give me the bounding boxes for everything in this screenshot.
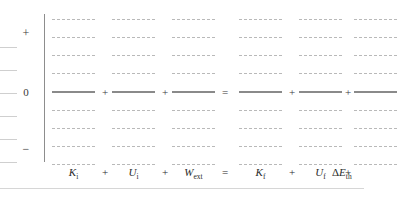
bar-column-kinetic-initial[interactable]	[52, 14, 95, 162]
term-label-work-external: Wext	[172, 166, 215, 181]
equation-operator-plus-1: +	[98, 166, 112, 178]
grid-row	[112, 164, 155, 165]
edge-tick-mark	[0, 47, 17, 48]
bottom-divider-rule	[0, 188, 364, 189]
equation-operator-plus-3: +	[285, 166, 299, 178]
grid-row	[354, 55, 397, 56]
zero-level-bar[interactable]	[52, 91, 95, 93]
grid-row	[172, 19, 215, 20]
bar-column-potential-initial[interactable]	[112, 14, 155, 162]
grid-row	[52, 55, 95, 56]
grid-row	[299, 128, 342, 129]
grid-row	[172, 55, 215, 56]
term-subscript: ext	[194, 172, 203, 181]
grid-row	[172, 128, 215, 129]
grid-row	[299, 37, 342, 38]
grid-row	[299, 19, 342, 20]
edge-tick-mark	[0, 139, 17, 140]
zero-level-bar[interactable]	[239, 91, 282, 93]
grid-row	[239, 164, 282, 165]
grid-row	[239, 55, 282, 56]
zero-level-bar[interactable]	[299, 91, 342, 93]
operator-plus-2: +	[158, 86, 172, 98]
grid-row	[239, 128, 282, 129]
grid-row	[299, 110, 342, 111]
grid-row	[112, 146, 155, 147]
zero-level-bar[interactable]	[172, 91, 215, 93]
grid-row	[52, 73, 95, 74]
grid-row	[112, 37, 155, 38]
equation-operator-plus-2: +	[158, 166, 172, 178]
grid-row	[354, 37, 397, 38]
bar-column-potential-final[interactable]	[299, 14, 342, 162]
grid-row	[172, 164, 215, 165]
bar-column-thermal-energy-change[interactable]	[354, 14, 397, 162]
term-label-kinetic-initial: Ki	[52, 166, 95, 181]
grid-row	[299, 73, 342, 74]
grid-row	[239, 146, 282, 147]
zero-level-bar[interactable]	[112, 91, 155, 93]
axis-label-positive: +	[16, 26, 36, 41]
bar-column-work-external[interactable]	[172, 14, 215, 162]
term-symbol: W	[184, 166, 193, 178]
grid-row	[172, 73, 215, 74]
edge-tick-mark	[0, 70, 17, 71]
operator-plus-3: +	[285, 86, 299, 98]
grid-row	[172, 37, 215, 38]
grid-row	[112, 19, 155, 20]
term-label-potential-initial: Ui	[112, 166, 155, 181]
grid-row	[112, 73, 155, 74]
grid-row	[239, 37, 282, 38]
term-subscript: f	[263, 172, 266, 181]
grid-row	[354, 73, 397, 74]
grid-row	[354, 19, 397, 20]
edge-tick-mark	[0, 93, 17, 94]
grid-row	[52, 146, 95, 147]
operator-plus-4: +	[341, 86, 355, 98]
grid-row	[239, 19, 282, 20]
edge-tick-mark	[0, 162, 17, 163]
term-symbol: K	[256, 166, 263, 178]
grid-row	[112, 55, 155, 56]
grid-row	[354, 128, 397, 129]
grid-row	[52, 37, 95, 38]
grid-row	[52, 19, 95, 20]
term-subscript: f	[323, 172, 326, 181]
grid-row	[172, 110, 215, 111]
grid-row	[239, 110, 282, 111]
zero-level-bar[interactable]	[354, 91, 397, 93]
grid-row	[354, 164, 397, 165]
grid-row	[112, 110, 155, 111]
grid-row	[239, 73, 282, 74]
axis-label-zero: 0	[16, 86, 36, 98]
term-subscript: i	[136, 172, 138, 181]
grid-row	[299, 55, 342, 56]
operator-plus-1: +	[98, 86, 112, 98]
grid-row	[52, 128, 95, 129]
grid-row	[354, 110, 397, 111]
term-label-kinetic-final: Kf	[239, 166, 282, 181]
axis-label-negative: −	[16, 142, 36, 157]
grid-row	[172, 146, 215, 147]
grid-row	[52, 110, 95, 111]
vertical-axis-line	[44, 14, 45, 162]
bar-column-kinetic-final[interactable]	[239, 14, 282, 162]
term-subscript: i	[76, 172, 78, 181]
grid-row	[112, 128, 155, 129]
grid-row	[354, 146, 397, 147]
grid-row	[299, 146, 342, 147]
equation-operator-plus-4: +	[341, 166, 355, 178]
operator-equals: =	[218, 86, 232, 98]
equation-operator-equals: =	[218, 166, 232, 178]
grid-row	[52, 164, 95, 165]
grid-row	[299, 164, 342, 165]
edge-tick-mark	[0, 116, 17, 117]
